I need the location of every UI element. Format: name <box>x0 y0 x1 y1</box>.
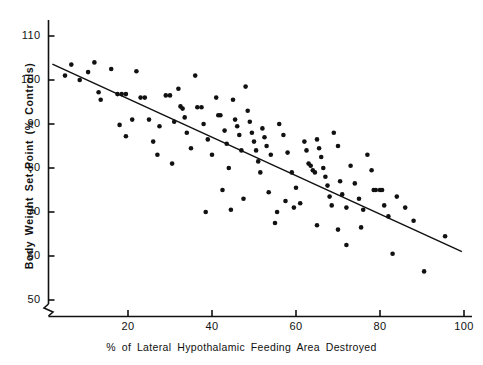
data-point <box>325 183 330 188</box>
plot-canvas <box>0 0 483 365</box>
data-point <box>220 188 225 193</box>
data-point <box>252 139 257 144</box>
data-point <box>283 199 288 204</box>
data-point <box>338 179 343 184</box>
data-point <box>250 131 255 136</box>
regression-trendline <box>52 64 462 251</box>
data-point <box>403 205 408 210</box>
data-point <box>353 181 358 186</box>
data-point <box>117 123 122 128</box>
y-tick-label: 50 <box>15 293 41 305</box>
data-point <box>443 234 448 239</box>
data-point <box>304 148 309 153</box>
y-axis-break-icon <box>44 304 53 316</box>
data-point <box>222 128 227 133</box>
data-point <box>199 105 204 110</box>
data-point <box>269 153 274 158</box>
x-axis-title: % of Lateral Hypothalamic Feeding Area D… <box>0 341 483 353</box>
data-point <box>374 188 379 193</box>
data-point <box>298 201 303 206</box>
data-point <box>157 124 162 129</box>
data-point <box>275 210 280 215</box>
data-point-group <box>63 60 448 274</box>
data-point <box>281 133 286 138</box>
data-point <box>422 269 427 274</box>
data-point <box>336 144 341 149</box>
data-point <box>245 109 250 114</box>
data-point <box>109 67 114 72</box>
y-tick-label: 110 <box>15 29 41 41</box>
data-point <box>227 166 232 171</box>
data-point <box>319 155 324 160</box>
data-point <box>359 225 364 230</box>
data-point <box>365 153 370 158</box>
data-point <box>143 95 148 100</box>
data-point <box>321 166 326 171</box>
data-point <box>201 122 206 127</box>
data-point <box>182 115 187 120</box>
data-point <box>203 210 208 215</box>
x-tick-label: 60 <box>276 320 316 332</box>
data-point <box>308 164 313 169</box>
axis-lines <box>44 20 472 317</box>
data-point <box>395 194 400 199</box>
data-point <box>185 131 190 136</box>
data-point <box>77 78 82 83</box>
data-point <box>98 98 103 103</box>
data-point <box>248 120 253 125</box>
data-point <box>344 205 349 210</box>
data-point <box>164 93 169 98</box>
data-point <box>147 117 152 122</box>
data-point <box>382 203 387 208</box>
scatter-plot-figure: 506070809010011020406080100 % of Lateral… <box>0 0 483 365</box>
data-point <box>231 98 236 103</box>
data-point <box>302 139 307 144</box>
data-point <box>96 90 101 95</box>
data-point <box>233 117 238 122</box>
data-point <box>348 164 353 169</box>
data-point <box>313 170 318 175</box>
data-point <box>214 95 219 100</box>
data-point <box>357 197 362 202</box>
data-point <box>168 93 173 98</box>
data-point <box>317 146 322 151</box>
data-point <box>315 223 320 228</box>
data-point <box>235 124 240 129</box>
data-point <box>380 188 385 193</box>
data-point <box>63 73 68 78</box>
data-point <box>243 84 248 89</box>
data-point <box>155 153 160 158</box>
data-point <box>92 60 97 65</box>
data-point <box>264 144 269 149</box>
data-point <box>134 69 139 74</box>
x-tick-label: 100 <box>444 320 483 332</box>
data-point <box>294 186 299 191</box>
data-point <box>193 73 198 78</box>
data-point <box>69 62 74 67</box>
x-axis-ticks <box>128 310 464 317</box>
data-point <box>292 205 297 210</box>
data-point <box>124 92 129 97</box>
data-point <box>315 137 320 142</box>
y-axis-ticks <box>49 36 55 300</box>
data-point <box>327 194 332 199</box>
data-point <box>262 135 267 140</box>
data-point <box>329 203 334 208</box>
data-point <box>254 148 259 153</box>
data-point <box>195 105 200 110</box>
data-point <box>369 168 374 173</box>
data-point <box>332 131 337 136</box>
data-point <box>229 208 234 213</box>
data-point <box>285 150 290 155</box>
data-point <box>170 161 175 166</box>
data-point <box>176 87 181 92</box>
data-point <box>206 137 211 142</box>
data-point <box>218 113 223 118</box>
data-point <box>336 227 341 232</box>
data-point <box>361 208 366 213</box>
data-point <box>210 153 215 158</box>
data-point <box>273 221 278 226</box>
data-point <box>241 197 246 202</box>
data-point <box>124 134 129 139</box>
data-point <box>344 243 349 248</box>
